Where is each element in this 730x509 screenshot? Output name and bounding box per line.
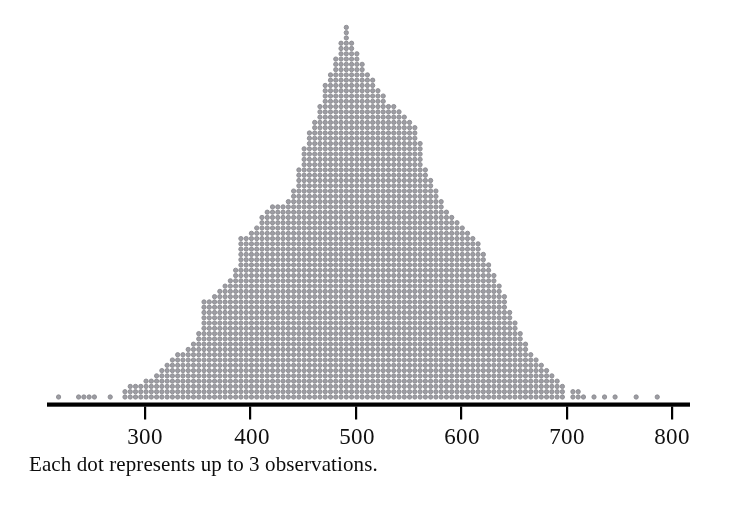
dot-plot-figure: 300 400 500 600 700 800 Each dot represe… bbox=[0, 0, 730, 509]
axis-tick-label-500: 500 bbox=[339, 424, 374, 450]
axis-tick-label-300: 300 bbox=[127, 424, 162, 450]
axis-tick-label-600: 600 bbox=[444, 424, 479, 450]
axis-tick-label-800: 800 bbox=[654, 424, 689, 450]
axis-tick-label-400: 400 bbox=[234, 424, 269, 450]
axis-tick-label-700: 700 bbox=[549, 424, 584, 450]
figure-caption: Each dot represents up to 3 observations… bbox=[29, 452, 378, 477]
